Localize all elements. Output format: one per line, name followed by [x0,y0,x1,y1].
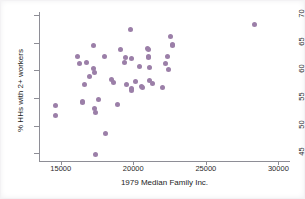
data-point [160,85,165,90]
data-point [53,103,58,108]
data-point [137,64,142,69]
data-point [129,56,134,61]
data-point [146,47,151,52]
data-point [146,55,151,60]
data-point [87,74,92,79]
data-point [91,43,96,48]
data-point [96,97,101,102]
data-point [166,67,171,72]
data-point [129,88,134,93]
y-axis-title: % HHs with 2+ workers [16,31,25,151]
data-points-layer [0,0,305,199]
data-point [168,34,173,39]
scatter-plot-figure: 455055606570 15000200002500030000 % HHs … [0,0,305,199]
data-point [53,113,58,118]
data-point [93,110,98,115]
data-point [165,54,170,59]
data-point [103,131,108,136]
data-point [118,47,123,52]
data-point [122,60,127,65]
data-point [147,65,152,70]
data-point [133,79,138,84]
data-point [111,80,116,85]
data-point [140,85,145,90]
x-axis-title: 1979 Median Family Inc. [39,178,290,187]
data-point [128,27,133,32]
data-point [93,152,98,157]
plot-area: 455055606570 15000200002500030000 % HHs … [0,0,305,199]
data-point [102,54,107,59]
data-point [82,82,87,87]
data-point [170,43,175,48]
data-point [84,60,89,65]
data-point [163,61,168,66]
data-point [77,61,82,66]
data-point [80,100,85,105]
data-point [75,54,80,59]
data-point [150,81,155,86]
data-point [92,70,97,75]
data-point [115,102,120,107]
data-point [252,22,257,27]
data-point [123,55,128,60]
